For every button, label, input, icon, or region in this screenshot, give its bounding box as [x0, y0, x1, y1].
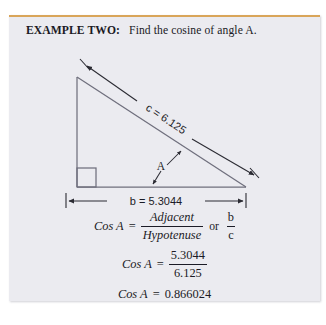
- numeric-numerator: 5.3044: [169, 249, 207, 263]
- equals-sign-2: =: [157, 258, 164, 271]
- right-angle-marker-icon: [77, 168, 96, 187]
- triangle-svg: c = 6.125 A b = 5.3044: [9, 43, 320, 208]
- example-prompt: Find the cosine of angle A.: [129, 24, 257, 37]
- solution-line-2: Cos A = 5.3044 6.125: [9, 249, 320, 281]
- example-label: EXAMPLE TWO:: [26, 24, 120, 37]
- equals-sign-3: =: [153, 288, 160, 301]
- cos-a-lhs-1: Cos A: [94, 220, 124, 233]
- ratio-numerator-letter: b: [227, 211, 235, 225]
- ratio-denominator-letter: c: [227, 229, 235, 243]
- angle-arrow-lower: [153, 171, 161, 184]
- cos-a-lhs-2: Cos A: [122, 258, 152, 271]
- hyp-ext-tick-left: [80, 59, 89, 69]
- angle-a-label: A: [157, 160, 166, 172]
- example-heading: EXAMPLE TWO: Find the cosine of angle A.: [26, 24, 314, 37]
- cosine-result-value: 0.866024: [165, 288, 211, 301]
- worked-solution: Cos A = Adjacent Hypotenuse or b c Cos A…: [9, 211, 320, 301]
- page-canvas: EXAMPLE TWO: Find the cosine of angle A.: [0, 0, 326, 325]
- equals-sign-1: =: [129, 220, 136, 233]
- example-panel: EXAMPLE TWO: Find the cosine of angle A.: [9, 15, 320, 301]
- numeric-denominator: 6.125: [172, 267, 204, 281]
- numeric-fraction: 5.3044 6.125: [169, 249, 207, 281]
- hyp-dim-arrow-left: [87, 66, 137, 101]
- ratio-words-fraction: Adjacent Hypotenuse: [141, 211, 204, 243]
- hyp-dim-arrow-right: [192, 139, 254, 175]
- solution-line-3: Cos A = 0.866024: [9, 288, 320, 301]
- ratio-numerator-word: Adjacent: [148, 211, 196, 225]
- triangle-diagram: c = 6.125 A b = 5.3044: [9, 43, 320, 208]
- ratio-letters-fraction: b c: [227, 211, 235, 243]
- cos-a-lhs-3: Cos A: [118, 288, 148, 301]
- panel-top-rule: [9, 15, 320, 17]
- ratio-denominator-word: Hypotenuse: [141, 229, 204, 243]
- base-label: b = 5.3044: [130, 195, 182, 207]
- or-connector: or: [209, 221, 219, 233]
- solution-line-1: Cos A = Adjacent Hypotenuse or b c: [9, 211, 320, 243]
- angle-arrow-upper: [167, 151, 181, 165]
- hypotenuse-label: c = 6.125: [144, 101, 189, 136]
